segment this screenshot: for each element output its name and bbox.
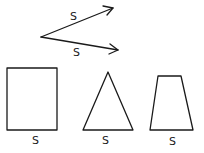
diagram-canvas: S S S S S — [0, 0, 204, 153]
rectangle-outline — [7, 68, 57, 130]
rectangle-shape: S — [7, 68, 57, 147]
trapezoid-shape: S — [150, 76, 193, 148]
vector-lower: S — [41, 37, 118, 59]
trapezoid-outline — [150, 76, 193, 130]
vector-lower-label: S — [73, 46, 80, 59]
rectangle-label: S — [32, 134, 39, 147]
triangle-label: S — [102, 134, 109, 147]
triangle-outline — [83, 72, 133, 130]
trapezoid-label: S — [169, 135, 176, 148]
vector-upper-label: S — [70, 10, 77, 23]
triangle-shape: S — [83, 72, 133, 147]
vector-upper: S — [41, 6, 113, 37]
vector-upper-shaft — [41, 8, 113, 37]
